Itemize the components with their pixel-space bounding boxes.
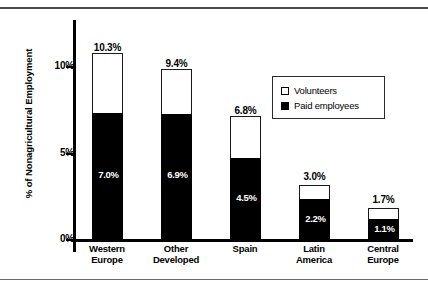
bar-paid-label: 2.2%: [300, 213, 331, 224]
bar-total-label: 3.0%: [283, 171, 346, 182]
bar-group-latin-america[interactable]: 3.0% 2.2% Latin America: [283, 7, 345, 239]
bar-stack[interactable]: 6.8% 4.5%: [230, 116, 261, 239]
bar-stack[interactable]: 3.0% 2.2%: [299, 185, 330, 239]
x-label-line2: Developed: [137, 254, 215, 265]
x-label-line1: Central: [344, 243, 422, 254]
bar-segment-volunteers[interactable]: [299, 185, 330, 199]
legend-item-paid-employees[interactable]: Paid employees: [281, 100, 377, 112]
bar-paid-label: 7.0%: [93, 169, 124, 180]
legend-swatch-white-square-icon: [281, 87, 289, 95]
bar-group-spain[interactable]: 6.8% 4.5% Spain: [214, 7, 276, 239]
bar-total-label: 10.3%: [76, 42, 139, 53]
bar-segment-paid-employees[interactable]: 1.1%: [368, 219, 399, 239]
y-axis-title: % of Nonagricultural Employment: [23, 24, 34, 224]
legend-label-volunteers: Volunteers: [294, 85, 337, 97]
chart-legend: Volunteers Paid employees: [272, 76, 385, 119]
x-axis-label-spain: Spain: [206, 243, 284, 254]
bar-stack[interactable]: 10.3% 7.0%: [92, 53, 123, 239]
bar-segment-paid-employees[interactable]: 2.2%: [299, 199, 330, 239]
x-label-line1: Latin: [275, 243, 353, 254]
bar-stack[interactable]: 9.4% 6.9%: [161, 69, 192, 239]
x-axis-label-western-europe: Western Europe: [68, 243, 146, 265]
plot-area: 10.3% 7.0% Western Europe 9.4% 6.9%: [76, 10, 413, 242]
y-tick-0: 0%: [26, 234, 74, 244]
x-axis-label-other-developed: Other Developed: [137, 243, 215, 265]
bar-total-label: 6.8%: [214, 105, 277, 116]
x-label-line1: Spain: [206, 243, 284, 254]
x-label-line2: Europe: [68, 254, 146, 265]
y-tick-5: 5%: [26, 148, 74, 158]
bar-segment-volunteers[interactable]: [92, 53, 123, 113]
bar-group-central-europe[interactable]: 1.7% 1.1% Central Europe: [352, 7, 414, 239]
y-tick-label-10: 10%: [40, 61, 74, 71]
y-tick-10: 10%: [26, 61, 74, 71]
bar-total-label: 1.7%: [352, 194, 415, 205]
bar-paid-label: 4.5%: [231, 192, 262, 203]
legend-label-paid-employees: Paid employees: [294, 100, 359, 112]
bar-segment-paid-employees[interactable]: 6.9%: [161, 114, 192, 239]
x-axis-label-central-europe: Central Europe: [344, 243, 422, 265]
bar-segment-paid-employees[interactable]: 4.5%: [230, 158, 261, 239]
legend-item-volunteers[interactable]: Volunteers: [281, 85, 377, 97]
bar-group-western-europe[interactable]: 10.3% 7.0% Western Europe: [76, 7, 138, 239]
x-label-line2: America: [275, 254, 353, 265]
page-rule-bottom: [0, 279, 428, 280]
x-axis-label-latin-america: Latin America: [275, 243, 353, 265]
x-label-line2: Europe: [344, 254, 422, 265]
bar-group-other-developed[interactable]: 9.4% 6.9% Other Developed: [145, 7, 207, 239]
bar-paid-label: 1.1%: [369, 223, 400, 234]
bar-segment-volunteers[interactable]: [368, 208, 399, 219]
bar-segment-paid-employees[interactable]: 7.0%: [92, 113, 123, 239]
x-label-line1: Western: [68, 243, 146, 254]
bar-segment-volunteers[interactable]: [230, 116, 261, 158]
x-label-line1: Other: [137, 243, 215, 254]
bar-paid-label: 6.9%: [162, 169, 193, 180]
legend-swatch-black-square-icon: [281, 102, 289, 110]
y-tick-label-5: 5%: [40, 148, 74, 158]
bar-stack[interactable]: 1.7% 1.1%: [368, 208, 399, 239]
stacked-bar-chart: % of Nonagricultural Employment 10% 5% 0…: [0, 10, 428, 278]
bar-segment-volunteers[interactable]: [161, 69, 192, 114]
bar-total-label: 9.4%: [145, 58, 208, 69]
